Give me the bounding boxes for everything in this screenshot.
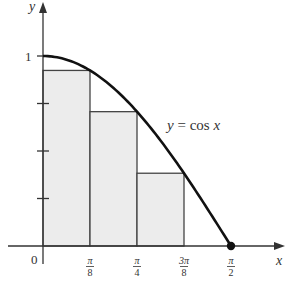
svg-text:π: π [87,255,93,266]
riemann-rectangles [43,70,184,246]
x-tick-label-1: π8 [86,255,94,278]
svg-text:3π: 3π [178,255,190,266]
rectangle-1 [43,70,90,246]
endpoint-marker [227,242,235,250]
svg-text:8: 8 [88,267,93,278]
x-tick-label-2: π4 [133,255,141,278]
svg-text:2: 2 [229,267,234,278]
y-axis-arrow-icon [39,2,47,13]
origin-label: 0 [31,252,38,267]
svg-text:π: π [134,255,140,266]
rectangle-2 [90,112,137,246]
y-tick-label-1: 1 [25,49,32,64]
y-axis-label: y [27,0,36,14]
svg-text:π: π [228,255,234,266]
x-axis-label: x [275,253,283,268]
x-axis-arrow-icon [274,242,285,250]
rectangle-3 [137,173,184,246]
svg-text:4: 4 [135,267,140,278]
chart-canvas: π8π43π8π201yxy = cos x [0,0,296,297]
svg-text:8: 8 [182,267,187,278]
x-tick-label-4: π2 [227,255,235,278]
function-label: y = cos x [165,117,220,133]
x-tick-label-3: 3π8 [178,255,190,278]
